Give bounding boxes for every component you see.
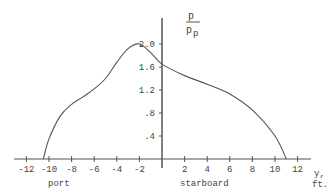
- x-axis-unit-line2: ft.: [312, 180, 328, 190]
- x-tick-label: -8: [66, 165, 77, 175]
- x-tick-label: -10: [41, 165, 57, 175]
- y-axis-label-subscript: p: [193, 29, 198, 39]
- x-tick-label: -12: [18, 165, 34, 175]
- y-tick-label: .4: [144, 132, 155, 142]
- port-label: port: [48, 179, 70, 189]
- y-tick-label: .8: [144, 109, 155, 119]
- x-tick-label: 6: [227, 165, 232, 175]
- y-ticks: .4.81.21.62.0: [139, 40, 162, 142]
- x-tick-label: -4: [111, 165, 122, 175]
- x-tick-label: 10: [270, 165, 281, 175]
- x-tick-label: 4: [204, 165, 209, 175]
- y-axis-label-denominator: p: [186, 25, 192, 36]
- axes: [14, 18, 311, 168]
- x-tick-label: -6: [89, 165, 100, 175]
- x-tick-label: 2: [182, 165, 187, 175]
- y-axis-label-numerator: p: [188, 11, 194, 22]
- y-tick-label: 1.6: [139, 63, 155, 73]
- x-tick-label: 12: [292, 165, 303, 175]
- starboard-label: starboard: [180, 179, 229, 189]
- x-axis-unit-line1: y,: [314, 169, 325, 179]
- x-tick-label: -2: [134, 165, 145, 175]
- pressure-chart: -12-10-8-6-4-224681012 .4.81.21.62.0 p p…: [0, 0, 331, 194]
- x-tick-label: 8: [250, 165, 255, 175]
- pressure-curve: [43, 44, 286, 159]
- y-tick-label: 1.2: [139, 86, 155, 96]
